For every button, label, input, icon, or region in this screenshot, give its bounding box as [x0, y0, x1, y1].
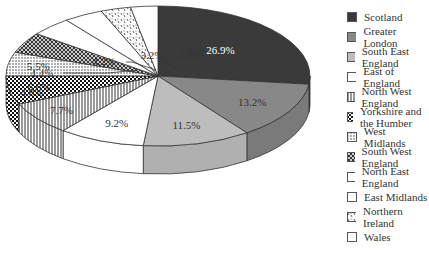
pie-chart-figure: 26.9%13.2%11.5%9.2%7.7%6.6%5.5%4.8%4.4%4…	[0, 0, 429, 253]
legend-item: South East England	[347, 47, 429, 67]
legend-swatch-icon	[347, 72, 356, 82]
legend-item: Greater London	[347, 27, 429, 47]
legend-item: Scotland	[347, 7, 429, 27]
legend-swatch-icon	[347, 32, 356, 42]
legend-item: North West England	[347, 87, 429, 107]
legend-item: West Midlands	[347, 127, 429, 147]
slice-label: 2.9%	[180, 48, 203, 60]
legend-swatch-icon	[347, 52, 355, 62]
pie-body	[6, 6, 310, 174]
legend: ScotlandGreater LondonSouth East England…	[347, 7, 429, 247]
legend-swatch-icon	[347, 232, 357, 242]
legend-swatch-icon	[347, 192, 357, 202]
slice-label: 4.4%	[31, 67, 54, 79]
legend-item: North East England	[347, 167, 429, 187]
legend-swatch-icon	[347, 132, 357, 142]
legend-swatch-icon	[347, 112, 353, 122]
legend-swatch-icon	[347, 92, 355, 102]
legend-label: Northern Ireland	[363, 205, 429, 229]
legend-item: Yorkshire and the Humber	[347, 107, 429, 127]
legend-item: Wales	[347, 227, 429, 247]
slice-label: 9.2%	[105, 117, 128, 129]
slice-label: 11.5%	[173, 119, 201, 131]
slice-label: 7.7%	[50, 104, 73, 116]
legend-label: East Midlands	[364, 191, 427, 203]
slice-label: 4.8%	[21, 86, 44, 98]
legend-swatch-icon	[347, 152, 355, 162]
slice-label: 26.9%	[206, 44, 234, 56]
slice-label: 4.2%	[93, 55, 116, 67]
legend-label: Scotland	[364, 11, 403, 23]
legend-swatch-icon	[347, 172, 355, 182]
legend-item: East of England	[347, 67, 429, 87]
legend-label: North East England	[362, 165, 429, 189]
legend-item: Northern Ireland	[347, 207, 429, 227]
legend-item: East Midlands	[347, 187, 429, 207]
slice-label: 13.2%	[238, 96, 266, 108]
legend-item: South West England	[347, 147, 429, 167]
legend-swatch-icon	[347, 12, 357, 22]
legend-label: Wales	[364, 231, 391, 243]
slice-label: 3.2%	[141, 49, 164, 61]
legend-swatch-icon	[347, 212, 356, 222]
